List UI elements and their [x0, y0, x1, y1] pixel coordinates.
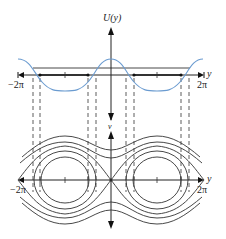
bottom-y-axis-down-arrow-icon: [108, 221, 114, 229]
phase-portrait-diagram: U(y) y −2π 2π v: [0, 0, 226, 239]
bottom-y-axis-top-down-arrow-icon: [108, 113, 114, 121]
bottom-y-axis-up-arrow-icon: [108, 131, 114, 139]
bottom-x-max-label: 2π: [197, 184, 207, 195]
bottom-x-axis-label: y: [206, 173, 212, 184]
bottom-x-axis-right-arrow-icon: [198, 177, 204, 183]
top-x-min-label: −2π: [8, 79, 24, 90]
top-y-axis-label: U(y): [103, 12, 122, 24]
bottom-y-axis-label: v: [108, 122, 112, 131]
top-x-max-label: 2π: [197, 79, 207, 90]
top-x-axis-right-arrow-icon: [198, 72, 204, 78]
bottom-x-axis-left-arrow-icon: [18, 177, 24, 183]
bottom-x-min-label: −2π: [10, 184, 26, 195]
top-x-axis-left-arrow-icon: [18, 72, 24, 78]
top-x-axis-label: y: [206, 68, 212, 79]
top-y-axis-arrow-icon: [108, 27, 114, 35]
